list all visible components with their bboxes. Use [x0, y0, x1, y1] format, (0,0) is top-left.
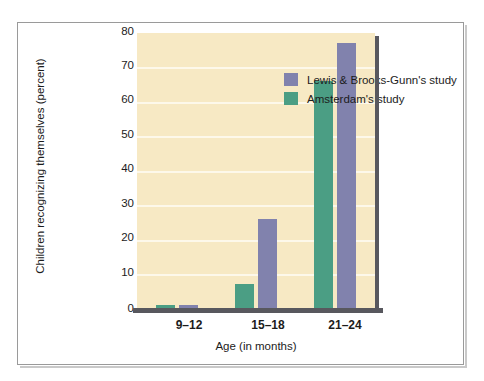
y-axis-tick: 40	[121, 163, 134, 175]
legend-item: Amsterdam's study	[284, 92, 457, 105]
legend-item-label: Lewis & Brooks-Gunn's study	[307, 74, 457, 86]
y-axis-tick: 80	[121, 26, 134, 38]
y-axis-tick: 70	[121, 60, 134, 72]
figure: 80 70 60 50 40 30 20 10 0 Children recog…	[0, 0, 484, 381]
y-axis-tick: 20	[121, 232, 134, 244]
x-axis-baseline	[133, 308, 383, 313]
y-axis-tick: 50	[121, 129, 134, 141]
plot-area: Lewis & Brooks-Gunn's study Amsterdam's …	[137, 33, 375, 308]
legend-item-label: Amsterdam's study	[307, 93, 404, 105]
plot-right-edge	[375, 36, 379, 311]
y-axis-ticks: 80 70 60 50 40 30 20 10 0	[108, 26, 134, 316]
x-axis-tick-21-24: 21–24	[305, 318, 385, 332]
bar-lewis-15-18	[258, 219, 277, 308]
x-axis-tick-9-12: 9–12	[149, 318, 229, 332]
x-axis-title: Age (in months)	[137, 340, 375, 352]
bar-amsterdam-21-24	[314, 81, 333, 308]
y-axis-tick: 60	[121, 94, 134, 106]
legend-swatch-icon	[284, 73, 298, 86]
y-axis-title: Children recognizing themselves (percent…	[34, 51, 46, 281]
x-axis-tick-15-18: 15–18	[228, 318, 308, 332]
bar-amsterdam-15-18	[235, 284, 254, 308]
legend-item: Lewis & Brooks-Gunn's study	[284, 73, 457, 86]
legend: Lewis & Brooks-Gunn's study Amsterdam's …	[284, 73, 457, 111]
legend-swatch-icon	[284, 92, 298, 105]
y-axis-tick: 10	[121, 267, 134, 279]
y-axis-tick: 30	[121, 198, 134, 210]
